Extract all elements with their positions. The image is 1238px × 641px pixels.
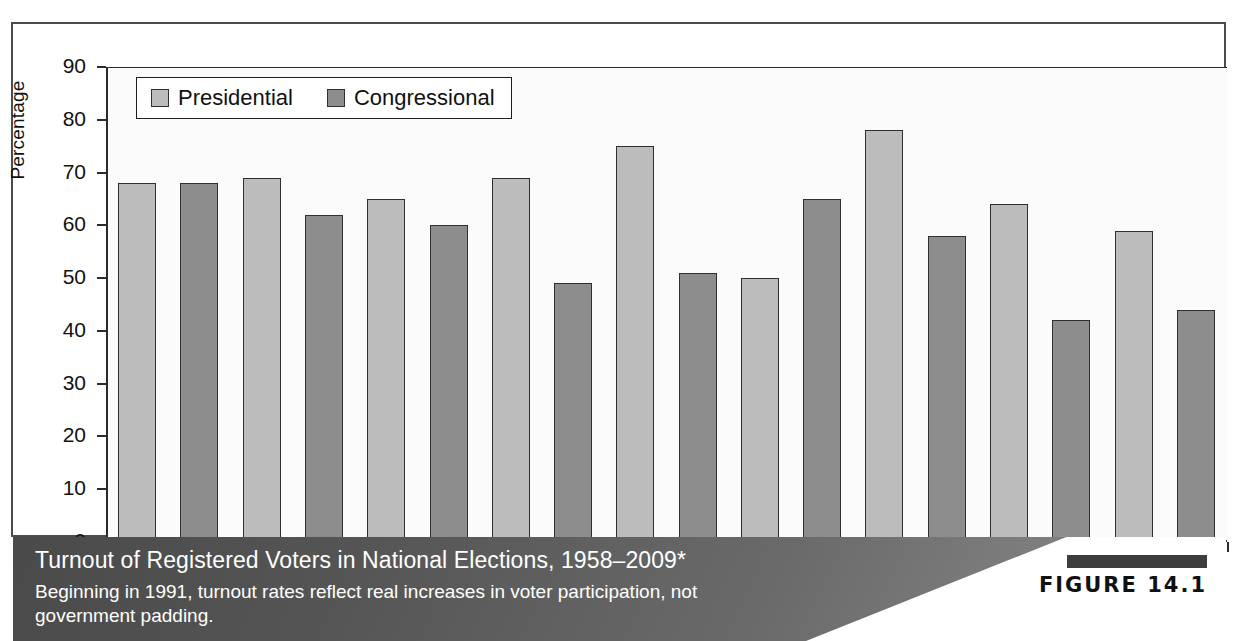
bar-slot [542,67,604,542]
legend-swatch-congressional-icon [327,89,345,107]
bar-1967[interactable] [305,215,343,542]
bar-1985[interactable] [679,273,717,542]
bar-1979[interactable] [554,283,592,542]
y-axis-tick-label: 90 [26,54,86,78]
bar-1964[interactable] [243,178,281,542]
caption-band: Turnout of Registered Voters in National… [13,537,1226,641]
y-axis-tick-label: 70 [26,160,86,184]
figure-subtitle: Beginning in 1991, turnout rates reflect… [35,580,735,628]
bar-1958[interactable] [118,183,156,542]
y-axis-tick-mark [97,330,106,332]
bar-slot [729,67,791,542]
bar-2004[interactable] [1052,320,1090,542]
bar-slot [293,67,355,542]
figure-screenshot: Percentage 9080706050403020100 195819611… [0,0,1238,641]
bar-2006[interactable] [1115,231,1153,542]
bar-slot [604,67,666,542]
bar-1991[interactable] [803,199,841,542]
y-axis-tick-mark [97,488,106,490]
bar-slot [791,67,853,542]
bar-slot [417,67,479,542]
y-axis-tick-mark [97,383,106,385]
legend-label-congressional: Congressional [354,85,495,111]
bar-1988[interactable] [741,278,779,542]
y-axis-tick-label: 80 [26,107,86,131]
y-axis-tick-mark [97,277,106,279]
bar-slot [916,67,978,542]
bar-slot [480,67,542,542]
bar-slot [667,67,729,542]
bar-slot [853,67,915,542]
figure-number-label: FIGURE 14.1 [1039,573,1207,597]
bar-slot [1040,67,1102,542]
y-axis-tick-label: 50 [26,265,86,289]
figure-tag-rule [1067,555,1207,568]
legend-item-congressional: Congressional [327,85,495,111]
bar-2000[interactable] [990,204,1028,542]
y-axis-tick-mark [97,66,106,68]
y-axis-tick-mark [97,119,106,121]
chart-frame: Percentage 9080706050403020100 195819611… [11,22,1226,537]
bar-slot [1102,67,1164,542]
bar-1961[interactable] [180,183,218,542]
legend-swatch-presidential-icon [151,89,169,107]
bar-slot [978,67,1040,542]
y-axis-tick-label: 60 [26,212,86,236]
bar-1982[interactable] [616,146,654,542]
bar-1973[interactable] [430,225,468,542]
bar-group: 1958196119641967197019731976197919821985… [106,67,1227,542]
y-axis-tick-label: 30 [26,371,86,395]
bar-1994[interactable] [865,130,903,542]
y-axis-tick-label: 20 [26,423,86,447]
figure-number-tag: FIGURE 14.1 [1039,555,1207,597]
figure-title: Turnout of Registered Voters in National… [35,546,845,575]
bar-slot [355,67,417,542]
y-axis-tick-label: 10 [26,476,86,500]
bar-1970[interactable] [367,199,405,542]
bar-1976[interactable] [492,178,530,542]
bar-slot [231,67,293,542]
chart-legend: Presidential Congressional [136,77,512,119]
x-axis-tick-mark [1227,542,1229,552]
legend-item-presidential: Presidential [151,85,293,111]
y-axis-tick-label: 40 [26,318,86,342]
bar-slot [1165,67,1227,542]
y-axis-tick-mark [97,435,106,437]
bar-slot [106,67,168,542]
legend-label-presidential: Presidential [178,85,293,111]
caption-text-block: Turnout of Registered Voters in National… [35,546,845,628]
bar-slot [168,67,230,542]
y-axis-tick-mark [97,172,106,174]
bar-2009[interactable] [1177,310,1215,542]
bar-1997[interactable] [928,236,966,542]
y-axis-tick-mark [97,224,106,226]
